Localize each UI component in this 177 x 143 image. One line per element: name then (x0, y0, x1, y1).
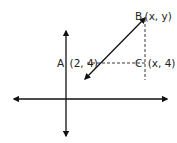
point-c-coords: (x, 4) (148, 57, 176, 69)
point-c-label: C (135, 57, 142, 69)
point-a-label: A (57, 57, 65, 69)
point-a-coords: (2, 4) (70, 57, 98, 69)
point-b-label: B (135, 10, 142, 22)
svg-text:C (x, 4): C (x, 4) (135, 57, 175, 69)
point-b-coords: (x, y) (145, 10, 172, 22)
line-ab (85, 18, 145, 79)
svg-text:B (x, y): B (x, y) (135, 10, 172, 22)
coordinate-diagram: A (2, 4) B (x, y) C (x, 4) (0, 0, 177, 143)
svg-text:A (2, 4): A (2, 4) (57, 57, 98, 69)
